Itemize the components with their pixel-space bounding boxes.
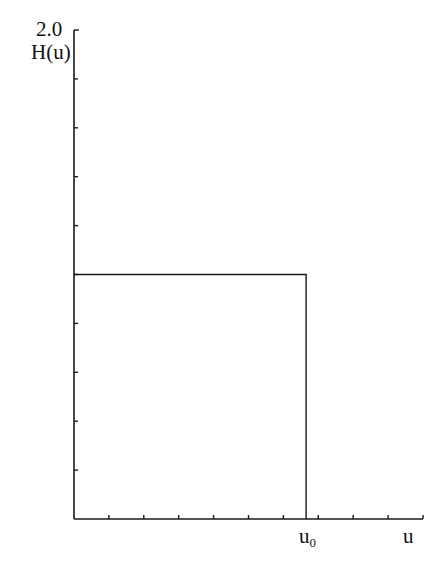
chart-canvas <box>0 0 446 570</box>
cutoff-frequency-label: u0 <box>299 526 316 547</box>
cutoff-label-subscript: 0 <box>310 535 317 550</box>
h-of-u-curve <box>74 275 306 520</box>
data-series <box>74 275 306 520</box>
y-top-tick-label: 2.0 <box>36 19 62 40</box>
y-axis-label: H(u) <box>31 42 71 63</box>
x-axis-label: u <box>403 526 414 547</box>
cutoff-label-base: u <box>299 524 310 548</box>
